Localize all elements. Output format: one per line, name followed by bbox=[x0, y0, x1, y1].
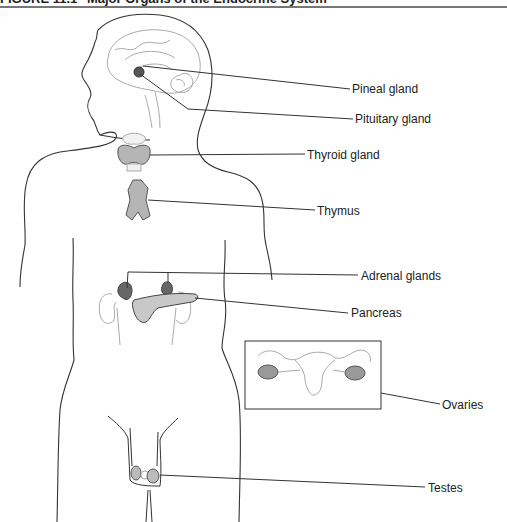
ovaries-inset bbox=[245, 341, 381, 409]
body-outline bbox=[20, 14, 272, 522]
label-pituitary-gland: Pituitary gland bbox=[355, 112, 431, 126]
testes-illustration bbox=[108, 416, 178, 522]
adrenal-right bbox=[162, 282, 173, 295]
label-pancreas: Pancreas bbox=[351, 306, 402, 320]
thyroid-illustration bbox=[118, 133, 150, 171]
label-testes: Testes bbox=[428, 481, 463, 495]
label-thyroid-gland: Thyroid gland bbox=[307, 148, 380, 162]
endocrine-diagram bbox=[0, 0, 507, 522]
brain-illustration bbox=[107, 30, 200, 128]
label-thymus: Thymus bbox=[317, 204, 360, 218]
pancreas-illustration bbox=[133, 293, 198, 322]
label-ovaries: Ovaries bbox=[442, 398, 483, 412]
thymus-illustration bbox=[126, 180, 150, 220]
label-pineal-gland: Pineal gland bbox=[352, 82, 418, 96]
adrenal-left bbox=[118, 282, 132, 299]
label-adrenal-glands: Adrenal glands bbox=[361, 269, 441, 283]
